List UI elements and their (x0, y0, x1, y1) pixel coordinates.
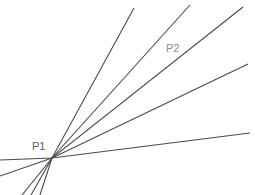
point-label-p1: P1 (32, 140, 45, 152)
point-label-p2: P2 (166, 42, 179, 54)
radiating-lines-diagram: P1 P2 (0, 0, 255, 195)
figure-canvas: P1 P2 (0, 0, 255, 195)
figure-background (0, 0, 255, 195)
